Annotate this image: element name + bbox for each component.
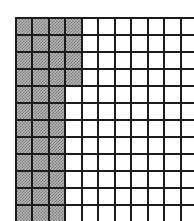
grid-cell xyxy=(17,189,31,204)
grid-cell xyxy=(132,155,146,170)
grid-cell xyxy=(17,53,31,68)
grid-cell xyxy=(33,70,47,85)
grid-cell xyxy=(17,87,31,102)
grid-cell xyxy=(132,87,146,102)
grid-cell xyxy=(66,206,80,221)
grid-cell xyxy=(17,155,31,170)
grid-cell xyxy=(132,138,146,153)
grid-cell xyxy=(165,70,179,85)
grid-cell xyxy=(116,104,130,119)
grid-cell xyxy=(99,19,113,34)
grid-cell xyxy=(182,70,194,85)
grid-cell xyxy=(99,138,113,153)
grid-cell xyxy=(116,172,130,187)
grid-cell xyxy=(116,138,130,153)
grid-cell xyxy=(83,172,97,187)
grid-cell xyxy=(50,155,64,170)
grid-cell xyxy=(182,19,194,34)
grid-cell xyxy=(66,36,80,51)
grid-cell xyxy=(50,104,64,119)
grid-cell xyxy=(132,104,146,119)
grid-cell xyxy=(66,155,80,170)
grid-cell xyxy=(66,104,80,119)
grid-cell xyxy=(116,189,130,204)
grid-cell xyxy=(50,53,64,68)
grid-cell xyxy=(99,87,113,102)
grid-cell xyxy=(83,155,97,170)
grid-cell xyxy=(116,70,130,85)
grid-cell xyxy=(66,121,80,136)
figure-root xyxy=(0,0,194,221)
grid-cell xyxy=(83,138,97,153)
grid-cell xyxy=(66,53,80,68)
grid-cell xyxy=(17,36,31,51)
grid-cell xyxy=(83,36,97,51)
grid-cell xyxy=(83,206,97,221)
grid-cell xyxy=(99,206,113,221)
grid-cell xyxy=(99,121,113,136)
grid-cell xyxy=(132,206,146,221)
grid-cell xyxy=(132,70,146,85)
grid-cell xyxy=(50,70,64,85)
grid-cell xyxy=(182,121,194,136)
grid-cell xyxy=(99,70,113,85)
grid-cell xyxy=(50,138,64,153)
grid-cell xyxy=(149,206,163,221)
grid-cell xyxy=(165,19,179,34)
grid-cell xyxy=(116,121,130,136)
grid-cell xyxy=(50,172,64,187)
grid-cell xyxy=(182,189,194,204)
grid-cell xyxy=(182,172,194,187)
grid-cell xyxy=(17,172,31,187)
cell-grid xyxy=(15,17,194,221)
grid-cell xyxy=(165,104,179,119)
grid-cell xyxy=(149,189,163,204)
grid-cell xyxy=(149,121,163,136)
grid-cell xyxy=(149,87,163,102)
grid-cell xyxy=(17,104,31,119)
grid-cell xyxy=(149,19,163,34)
grid-cell xyxy=(99,155,113,170)
grid-cell xyxy=(99,53,113,68)
grid-cell xyxy=(182,155,194,170)
grid-cell xyxy=(33,172,47,187)
grid-cell xyxy=(116,53,130,68)
grid-cell xyxy=(83,87,97,102)
grid-cell xyxy=(50,36,64,51)
grid-cell xyxy=(182,53,194,68)
grid-cell xyxy=(99,172,113,187)
grid-cell xyxy=(165,172,179,187)
grid-cell xyxy=(83,70,97,85)
grid-cell xyxy=(99,36,113,51)
grid-cell xyxy=(132,36,146,51)
grid-cell xyxy=(83,189,97,204)
grid-cell xyxy=(149,53,163,68)
grid-cell xyxy=(132,121,146,136)
grid-cell xyxy=(165,155,179,170)
grid-cell xyxy=(182,138,194,153)
grid-cell xyxy=(99,189,113,204)
grid-cell xyxy=(50,121,64,136)
grid-cell xyxy=(116,155,130,170)
grid-cell xyxy=(165,138,179,153)
grid-cell xyxy=(165,53,179,68)
grid-cell xyxy=(50,189,64,204)
grid-cell xyxy=(83,19,97,34)
grid-cell xyxy=(149,70,163,85)
grid-cell xyxy=(165,121,179,136)
grid-cell xyxy=(33,155,47,170)
grid-cell xyxy=(83,121,97,136)
grid-cell xyxy=(132,189,146,204)
grid-cell xyxy=(33,19,47,34)
grid-cell xyxy=(116,87,130,102)
grid-cell xyxy=(132,19,146,34)
grid-cell xyxy=(182,206,194,221)
grid-cell xyxy=(132,172,146,187)
grid-cell xyxy=(17,121,31,136)
grid-cell xyxy=(33,189,47,204)
grid-cell xyxy=(66,172,80,187)
grid-cell xyxy=(83,53,97,68)
grid-cell xyxy=(17,70,31,85)
grid-cell xyxy=(33,138,47,153)
grid-cell xyxy=(116,206,130,221)
